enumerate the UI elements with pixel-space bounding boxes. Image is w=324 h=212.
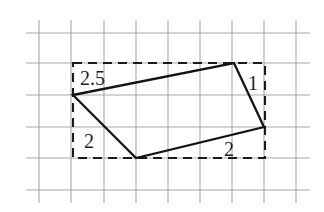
edge-label-2point5: 2.5 — [80, 67, 105, 89]
figure-canvas: 2.5 1 2 2 — [0, 0, 324, 212]
geometry-figure: 2.5 1 2 2 — [0, 0, 324, 212]
edge-label-1: 1 — [248, 72, 258, 94]
grid-layer — [26, 20, 310, 203]
edge-label-2-left: 2 — [84, 130, 94, 152]
edge-labels-layer: 2.5 1 2 2 — [80, 67, 258, 160]
edge-label-2-right: 2 — [224, 138, 234, 160]
